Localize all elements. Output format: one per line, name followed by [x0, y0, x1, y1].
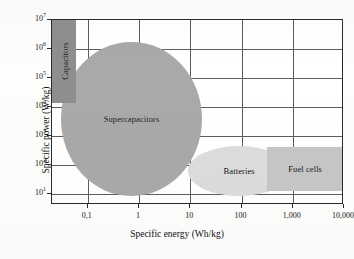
y-tick-label: 107 — [35, 15, 46, 23]
plot-area: CapacitorsSupercapacitorsBatteriesFuel c… — [51, 19, 343, 204]
x-tick-label: 100 — [235, 212, 247, 220]
x-tick-mark — [343, 204, 344, 208]
region-label: Batteries — [224, 166, 255, 176]
y-tick-label: 102 — [35, 160, 46, 168]
gridline-horizontal — [52, 49, 342, 50]
x-tick-mark — [138, 204, 139, 208]
region-label: Fuel cells — [288, 164, 322, 174]
x-tick-label: 10 — [185, 212, 193, 220]
gridline-horizontal — [52, 194, 342, 195]
y-tick-label: 106 — [35, 44, 46, 52]
x-tick-mark — [292, 204, 293, 208]
region-fuel-cells: Fuel cells — [267, 147, 343, 192]
y-tick-label: 104 — [35, 102, 46, 110]
y-tick-label: 105 — [35, 73, 46, 81]
ragone-plot-figure: Specific power (W/kg) 107106105104103102… — [0, 0, 354, 259]
y-tick-label: 101 — [35, 189, 46, 197]
region-supercapacitors: Supercapacitors — [61, 42, 202, 197]
x-tick-label: 1 — [136, 212, 140, 220]
x-tick-label: 1,000 — [283, 212, 301, 220]
x-tick-label: 0,1 — [82, 212, 92, 220]
x-axis-title: Specific energy (Wh/kg) — [0, 229, 354, 239]
y-tick-label: 103 — [35, 131, 46, 139]
region-label: Supercapacitors — [104, 114, 160, 124]
region-capacitors: Capacitors — [52, 20, 76, 103]
x-tick-mark — [87, 204, 88, 208]
x-tick-mark — [189, 204, 190, 208]
region-label: Capacitors — [59, 43, 69, 80]
x-tick-mark — [241, 204, 242, 208]
x-tick-label: 10,000 — [332, 212, 354, 220]
